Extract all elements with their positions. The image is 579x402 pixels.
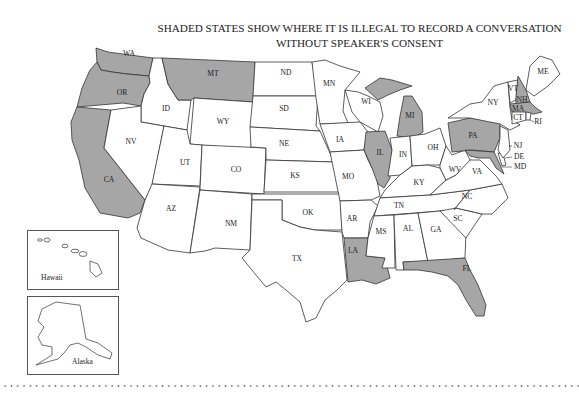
hawaii-label: Hawaii (41, 273, 63, 282)
label-az: AZ (166, 204, 176, 213)
state-ks[interactable] (264, 160, 340, 192)
state-nm[interactable] (190, 190, 252, 253)
label-ok: OK (303, 208, 314, 217)
leader-de (505, 157, 512, 158)
state-me[interactable] (526, 56, 560, 96)
label-nm: NM (225, 219, 237, 228)
label-nv: NV (126, 137, 137, 146)
label-wy: WY (217, 117, 230, 126)
label-ks: KS (290, 171, 300, 180)
label-in: IN (399, 150, 408, 159)
hawaii-inset: Hawaii (27, 230, 119, 290)
label-tn: TN (394, 201, 405, 210)
label-mn: MN (323, 79, 336, 88)
label-or: OR (117, 88, 128, 97)
label-vt: VT (508, 84, 518, 93)
dotted-divider (0, 384, 579, 388)
label-va: VA (472, 167, 483, 176)
label-ar: AR (347, 214, 358, 223)
label-ct: CT (513, 113, 523, 122)
label-nh: NH (517, 95, 528, 104)
label-nc: NC (462, 192, 473, 201)
label-md: MD (514, 162, 527, 171)
label-pa: PA (468, 131, 478, 140)
state-ri[interactable] (526, 112, 531, 120)
label-id: ID (162, 104, 171, 113)
label-me: ME (537, 67, 549, 76)
label-ia: IA (336, 135, 345, 144)
label-al: AL (403, 224, 413, 233)
state-nj[interactable] (498, 126, 510, 158)
label-de: DE (514, 152, 524, 161)
label-mo: MO (342, 172, 355, 181)
label-nd: ND (281, 68, 292, 77)
label-ga: GA (431, 225, 442, 234)
state-sd[interactable] (250, 96, 320, 131)
alaska-inset: Alaska (27, 296, 119, 375)
label-mt: MT (207, 69, 219, 78)
label-ms: MS (376, 227, 387, 236)
label-nj: NJ (514, 141, 522, 150)
label-ny: NY (488, 98, 499, 107)
label-wi: WI (361, 97, 371, 106)
label-il: IL (376, 148, 384, 157)
label-ma: MA (512, 104, 525, 113)
state-fl[interactable] (403, 258, 486, 316)
label-tx: TX (292, 254, 303, 263)
alaska-label: Alaska (72, 357, 93, 366)
label-ne: NE (279, 139, 289, 148)
state-mt[interactable] (162, 58, 255, 102)
label-oh: OH (428, 143, 439, 152)
label-la: LA (348, 246, 359, 255)
label-ut: UT (180, 158, 190, 167)
label-wa: WA (123, 49, 135, 58)
label-ri: RI (534, 117, 542, 126)
label-sc: SC (453, 214, 462, 223)
label-ca: CA (104, 175, 115, 184)
label-fl: FL (463, 264, 472, 273)
label-wv: WV (449, 165, 462, 174)
label-sd: SD (279, 104, 289, 113)
label-co: CO (231, 165, 242, 174)
label-mi: MI (405, 111, 415, 120)
label-ky: KY (414, 178, 425, 187)
